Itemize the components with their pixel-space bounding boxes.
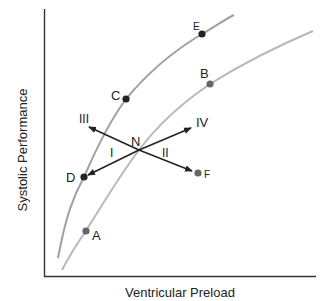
label-A: A — [92, 228, 101, 243]
label-D: D — [66, 170, 75, 185]
point-F — [194, 169, 201, 176]
label-arrow-II: II — [162, 146, 169, 160]
point-B — [206, 80, 213, 87]
label-arrow-I: I — [110, 146, 113, 160]
label-F: F — [204, 169, 210, 180]
y-axis-label: Systolic Performance — [15, 89, 30, 212]
label-B: B — [200, 66, 209, 81]
label-arrow-IV: IV — [196, 115, 209, 130]
arrow-I — [88, 150, 139, 175]
preload-performance-diagram: A B C D E F N I II III IV Ventricular Pr… — [0, 0, 332, 301]
label-E: E — [193, 21, 200, 32]
point-A — [82, 227, 89, 234]
label-C: C — [111, 88, 120, 103]
point-C — [122, 95, 129, 102]
label-arrow-III: III — [79, 112, 89, 126]
point-D — [80, 173, 87, 180]
x-axis-label: Ventricular Preload — [125, 285, 235, 300]
upper-curve — [58, 15, 234, 258]
label-N: N — [131, 134, 140, 149]
